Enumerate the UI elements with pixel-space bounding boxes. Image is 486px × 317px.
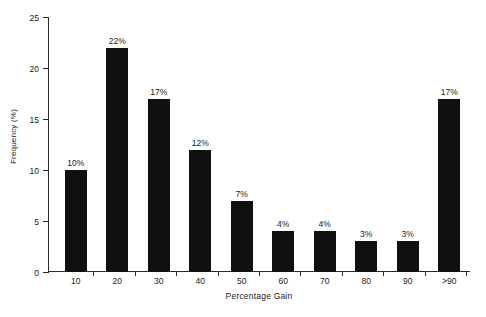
y-axis-tick-label: 5 <box>34 217 39 227</box>
bar[interactable] <box>106 48 128 272</box>
bar-group: 7% <box>221 17 262 272</box>
bar-group: 4% <box>263 17 304 272</box>
bar-value-label: 22% <box>109 36 126 46</box>
x-axis-tick <box>218 272 219 276</box>
y-axis-tick: 10 <box>43 170 49 171</box>
bar-value-label: 3% <box>402 229 414 239</box>
x-axis-tick <box>466 272 467 276</box>
bar-value-label: 17% <box>441 87 458 97</box>
bar-group: 10% <box>55 17 96 272</box>
bar[interactable] <box>148 99 170 272</box>
y-axis-tick-label: 20 <box>30 64 39 74</box>
bar[interactable] <box>231 201 253 272</box>
x-axis-tick-label: 60 <box>279 276 288 286</box>
bar-value-label: 7% <box>236 189 248 199</box>
bar-group: 22% <box>97 17 138 272</box>
y-axis-tick: 0 <box>43 272 49 273</box>
y-axis-tick-label: 10 <box>30 166 39 176</box>
bar-group: 4% <box>304 17 345 272</box>
x-axis-tick <box>300 272 301 276</box>
y-axis-tick: 15 <box>43 119 49 120</box>
x-axis-tick <box>93 272 94 276</box>
x-axis-title: Percentage Gain <box>48 291 470 301</box>
bar[interactable] <box>355 241 377 272</box>
bar-value-label: 10% <box>67 158 84 168</box>
x-axis-tick-label: >90 <box>442 276 456 286</box>
x-axis-tick-label: 80 <box>362 276 371 286</box>
bar-value-label: 4% <box>277 219 289 229</box>
bar-value-label: 12% <box>192 138 209 148</box>
x-axis-tick-label: 70 <box>320 276 329 286</box>
plot-area: 10%22%17%12%7%4%4%3%3%17% 0510152025 102… <box>48 17 470 272</box>
y-axis-title: Frequency (%) <box>2 0 26 272</box>
bar-chart: Frequency (%) 10%22%17%12%7%4%4%3%3%17% … <box>0 0 486 317</box>
x-axis-tick-label: 90 <box>403 276 412 286</box>
bar[interactable] <box>272 231 294 272</box>
y-axis-tick-label: 15 <box>30 115 39 125</box>
bar-value-label: 4% <box>319 219 331 229</box>
x-axis-tick <box>342 272 343 276</box>
bar-value-label: 3% <box>360 229 372 239</box>
bar-group: 3% <box>387 17 428 272</box>
x-axis-tick-label: 30 <box>154 276 163 286</box>
x-axis-tick <box>135 272 136 276</box>
bar[interactable] <box>189 150 211 272</box>
bar[interactable] <box>65 170 87 272</box>
x-axis-tick <box>259 272 260 276</box>
x-axis-tick <box>383 272 384 276</box>
x-axis-tick-label: 40 <box>196 276 205 286</box>
x-axis-tick <box>425 272 426 276</box>
x-axis-tick-label: 50 <box>237 276 246 286</box>
y-axis-tick: 20 <box>43 68 49 69</box>
x-axis-tick <box>176 272 177 276</box>
bar-group: 17% <box>429 17 470 272</box>
bar-group: 12% <box>180 17 221 272</box>
bar[interactable] <box>397 241 419 272</box>
x-axis-tick-label: 10 <box>71 276 80 286</box>
y-axis-title-text: Frequency (%) <box>10 108 19 163</box>
bar-group: 17% <box>138 17 179 272</box>
bar[interactable] <box>438 99 460 272</box>
bars-container: 10%22%17%12%7%4%4%3%3%17% <box>48 17 470 272</box>
bar-value-label: 17% <box>150 87 167 97</box>
y-axis-tick: 5 <box>43 221 49 222</box>
y-axis-tick-label: 25 <box>30 13 39 23</box>
bar[interactable] <box>314 231 336 272</box>
x-axis-tick-label: 20 <box>113 276 122 286</box>
y-axis-tick-label: 0 <box>34 268 39 278</box>
y-axis-tick: 25 <box>43 17 49 18</box>
bar-group: 3% <box>346 17 387 272</box>
